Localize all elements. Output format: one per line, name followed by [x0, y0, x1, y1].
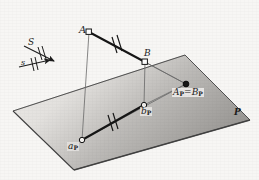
- S-arrow-shaft: [24, 46, 54, 61]
- label-point-A: A: [79, 25, 86, 35]
- label-Bp-subscript: P: [198, 90, 203, 97]
- marker-point-B: [142, 59, 147, 64]
- figure-canvas: [0, 0, 259, 180]
- marker-point-ap: [79, 137, 84, 142]
- geometry-figure: A B AP=BP bP aP P S s: [0, 0, 259, 180]
- label-point-Ap-eq-Bp: AP=BP: [172, 88, 204, 97]
- label-direction-s: s: [21, 59, 25, 67]
- label-equals-sign: =: [184, 87, 192, 97]
- label-plane-P: P: [234, 108, 241, 117]
- label-direction-S: S: [28, 38, 34, 47]
- label-point-B: B: [144, 49, 151, 58]
- marker-point-A: [86, 29, 91, 34]
- label-point-ap: aP: [67, 142, 79, 151]
- label-ap-subscript: P: [73, 144, 78, 151]
- label-bp-subscript: P: [147, 109, 152, 116]
- label-point-bp: bP: [140, 107, 152, 116]
